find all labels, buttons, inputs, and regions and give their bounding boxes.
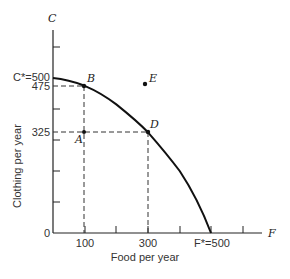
y-axis-symbol: C	[48, 12, 57, 25]
point-e-label: E	[148, 72, 157, 85]
x-label-fstar: F*=500	[194, 237, 230, 249]
point-b-label: B	[86, 72, 95, 85]
y-label-325: 325	[32, 126, 50, 138]
point-e-marker	[143, 82, 147, 86]
y-label-0: 0	[44, 227, 50, 239]
x-ticks	[85, 226, 243, 233]
dashed-guides	[53, 86, 148, 233]
ppf-chart: B A D E C F C*=500 475 325 0 100 300 F*=…	[0, 0, 290, 279]
x-axis-title: Food per year	[111, 251, 180, 263]
y-axis-title: Clothing per year	[11, 124, 23, 208]
y-label-475: 475	[32, 80, 50, 92]
production-possibilities-curve	[53, 78, 211, 233]
x-label-300: 300	[139, 237, 157, 249]
x-label-100: 100	[76, 237, 94, 249]
x-axis-symbol: F	[267, 227, 276, 240]
point-a-label: A	[74, 133, 83, 146]
y-ticks	[53, 47, 60, 202]
point-b-marker	[82, 84, 86, 88]
point-d-label: D	[149, 118, 159, 131]
